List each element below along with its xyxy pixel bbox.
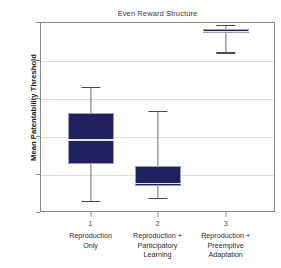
x-cat-label-line: Adaptation [183,250,269,260]
median-line [68,139,114,141]
gridline [41,99,274,100]
chart-title: Even Reward Structure [40,9,275,18]
y-tick-mark [36,98,40,99]
median-line [203,31,249,33]
whisker-cap [81,87,100,88]
y-tick-mark [36,174,40,175]
x-tick-number: 1 [56,219,126,228]
whisker-cap [216,52,235,53]
x-category-label: Reproduction +PreemptiveAdaptation [183,231,269,260]
whisker-cap [148,198,167,199]
y-tick-mark [36,212,40,213]
median-line [135,183,181,185]
boxplot-figure: Even Reward Structure Mean Patentability… [0,0,281,268]
whisker-cap [148,111,167,112]
y-tick-mark [36,22,40,23]
x-cat-label-line: Reproduction + [183,231,269,241]
x-cat-label-line: Preemptive [183,241,269,251]
x-tick-mark [90,212,91,217]
x-tick-mark [157,212,158,217]
y-tick-mark [36,60,40,61]
x-tick-number: 3 [191,219,261,228]
y-tick-mark [36,136,40,137]
gridline [41,61,274,62]
whisker-cap [216,25,235,26]
x-tick-mark [225,212,226,217]
x-tick-number: 2 [123,219,193,228]
whisker-cap [81,201,100,202]
